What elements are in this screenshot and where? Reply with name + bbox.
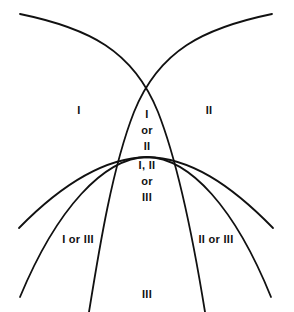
region-label-i-or-ii-line-2: or: [141, 122, 153, 138]
region-label-i-ii-or-iii-line-1: I, II: [139, 157, 156, 173]
region-label-i-or-ii-line-3: II: [141, 138, 153, 154]
region-label-i-or-ii-line-1: I: [141, 106, 153, 122]
region-label-ii: II: [206, 103, 213, 118]
region-label-iii: III: [142, 287, 152, 302]
region-label-i: I: [77, 103, 80, 118]
venn-diagram-figure: I II I or II I, II or III I or III II or…: [0, 0, 294, 312]
region-label-i-or-ii: I or II: [141, 106, 153, 154]
region-label-i-ii-or-iii-line-2: or: [139, 173, 156, 189]
region-label-i-ii-or-iii: I, II or III: [139, 157, 156, 205]
region-label-ii-or-iii: II or III: [198, 232, 233, 247]
region-label-i-ii-or-iii-line-3: III: [139, 189, 156, 205]
venn-arcs-svg: [0, 0, 294, 312]
region-label-i-or-iii: I or III: [62, 232, 94, 247]
